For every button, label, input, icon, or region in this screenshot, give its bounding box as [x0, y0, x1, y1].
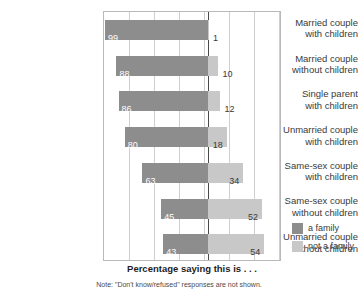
- bar-value-not-a-family: 10: [222, 64, 232, 84]
- bar-row: 8810: [104, 48, 280, 84]
- bar-value-not-a-family: 1: [213, 28, 218, 48]
- bar-value-a-family: 88: [119, 64, 129, 84]
- bar-segment-not-a-family: 10: [208, 56, 218, 76]
- bar-row: 8612: [104, 83, 280, 119]
- legend: a family not a family: [292, 219, 358, 255]
- bar-segment-a-family: 88: [116, 56, 208, 76]
- legend-item-a-family: a family: [292, 219, 358, 237]
- bar-segment-not-a-family: 54: [208, 234, 264, 254]
- bar-row: 8018: [104, 119, 280, 155]
- bar-value-not-a-family: 18: [213, 135, 223, 155]
- legend-label-a-family: a family: [308, 223, 339, 233]
- bar-value-a-family: 45: [164, 207, 174, 227]
- bar-segment-not-a-family: 12: [208, 91, 220, 111]
- bar-value-a-family: 99: [108, 28, 118, 48]
- bar-value-a-family: 86: [122, 99, 132, 119]
- bar-value-a-family: 63: [145, 171, 155, 191]
- bar-value-not-a-family: 54: [250, 242, 260, 262]
- bar-segment-not-a-family: 52: [208, 199, 262, 219]
- bar-row: 6334: [104, 155, 280, 191]
- legend-swatch-not-a-family: [292, 241, 303, 252]
- bar-value-not-a-family: 34: [229, 171, 239, 191]
- bar-value-a-family: 80: [128, 135, 138, 155]
- legend-item-not-a-family: not a family: [292, 237, 358, 255]
- bar-segment-not-a-family: 18: [208, 127, 227, 147]
- legend-label-not-a-family: not a family: [308, 241, 354, 251]
- bar-segment-a-family: 86: [119, 91, 208, 111]
- bar-value-not-a-family: 52: [248, 207, 258, 227]
- bar-segment-a-family: 43: [163, 234, 208, 254]
- bar-value-a-family: 43: [166, 242, 176, 262]
- legend-swatch-a-family: [292, 223, 303, 234]
- bar-row: 4552: [104, 191, 280, 227]
- chart-footnote: Note: "Don't know/refused" responses are…: [0, 281, 358, 288]
- bar-row: 991: [104, 12, 280, 48]
- bar-segment-not-a-family: 1: [208, 20, 209, 40]
- bar-segment-a-family: 63: [142, 163, 208, 183]
- bar-segment-a-family: 45: [161, 199, 208, 219]
- bar-segment-not-a-family: 34: [208, 163, 243, 183]
- axis-title: Percentage saying this is . . .: [103, 263, 281, 274]
- bar-value-not-a-family: 12: [224, 99, 234, 119]
- plot-area: 991881086128018633445524354: [103, 11, 281, 261]
- bar-row: 4354: [104, 226, 280, 262]
- diverging-stacked-bar-chart: Married couplewith childrenMarried coupl…: [0, 0, 358, 295]
- bar-segment-a-family: 99: [105, 20, 208, 40]
- bar-segment-a-family: 80: [125, 127, 208, 147]
